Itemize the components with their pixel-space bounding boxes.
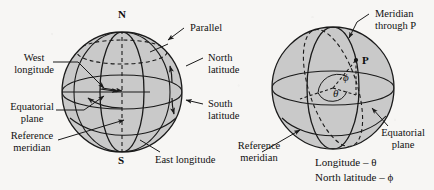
label-west-longitude: West longitude: [6, 52, 62, 75]
label-south-latitude: South latitude: [208, 98, 240, 121]
label-south-pole: S: [118, 154, 124, 166]
label-equatorial-plane-right: Equatorial plane: [372, 127, 434, 150]
label-meridian-through-p: Meridian through P: [375, 8, 416, 31]
label-reference-meridian-left: Reference meridian: [2, 130, 62, 153]
leader-south-latitude: [186, 100, 203, 104]
leader-north-latitude: [186, 58, 203, 66]
label-equatorial-plane-left: Equatorial plane: [2, 101, 62, 124]
label-angle-phi: ϕ: [343, 72, 349, 84]
label-north-latitude: North latitude: [208, 52, 240, 75]
label-point-p: P: [362, 54, 369, 66]
label-north-pole: N: [118, 8, 126, 20]
leader-meridian-p: [357, 14, 369, 22]
caption-north-latitude: North latitude – ϕ: [315, 172, 393, 184]
label-reference-meridian-right: Reference meridian: [228, 140, 290, 163]
left-globe: [62, 30, 182, 154]
label-east-longitude: East longitude: [155, 154, 215, 166]
label-parallel: Parallel: [190, 22, 222, 34]
caption-longitude: Longitude – θ: [315, 157, 376, 169]
point-p-marker: [354, 58, 358, 62]
label-angle-theta: θ: [333, 88, 338, 100]
leader-parallel: [168, 28, 184, 40]
